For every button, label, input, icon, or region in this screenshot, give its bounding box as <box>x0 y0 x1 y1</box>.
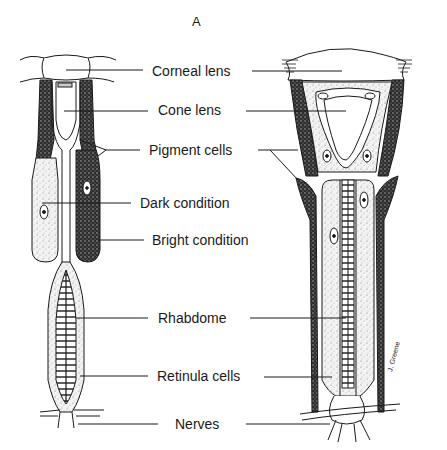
right-corneal-lens <box>282 49 412 81</box>
label-rhabdome: Rhabdome <box>158 310 227 326</box>
panel-letter: A <box>192 14 201 29</box>
label-cone-lens: Cone lens <box>158 102 221 118</box>
artist-signature: J. Greene <box>386 341 401 373</box>
left-corneal-lens <box>20 55 116 82</box>
label-corneal-lens: Corneal lens <box>152 63 231 79</box>
left-pigment-bright-condition <box>76 150 100 262</box>
right-ommatidium: J. Greene <box>282 49 412 442</box>
label-dark-condition: Dark condition <box>140 195 230 211</box>
right-pigment-lower-right <box>376 176 398 412</box>
label-nerves: Nerves <box>175 416 219 432</box>
label-pigment-cells: Pigment cells <box>149 142 232 158</box>
left-pigment-upper-right <box>80 80 98 160</box>
label-retinula-cells: Retinula cells <box>157 368 240 384</box>
label-bright-condition: Bright condition <box>152 232 249 248</box>
left-pigment-upper-left <box>36 80 54 160</box>
